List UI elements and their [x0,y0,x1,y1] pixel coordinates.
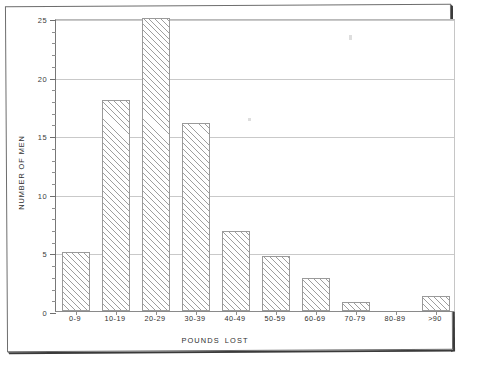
x-axis-tick-label: 70-79 [345,314,366,323]
x-axis-title: POUNDS LOST [0,336,477,345]
x-axis-tick-label: 80-89 [385,314,406,323]
bar [62,252,91,311]
x-axis-tick-label: >90 [428,314,442,323]
bar [302,278,331,311]
bar-series [56,20,454,311]
plot-area: 2520151050 [55,19,455,312]
y-axis-tick-label: 25 [38,16,47,25]
bar [342,302,371,311]
y-axis-tick-label: 0 [42,309,47,318]
x-axis-tick-label: 40-49 [225,314,246,323]
y-axis-tick [50,313,56,314]
bar [422,296,451,311]
histogram-chart: 2520151050 0-910-1920-2930-3940-4950-596… [0,0,477,368]
bar [262,256,291,311]
x-axis-tick-label: 10-19 [105,314,126,323]
x-axis-tick-label: 50-59 [265,314,286,323]
y-axis-tick-label: 5 [42,250,47,259]
y-axis-tick-label: 20 [38,74,47,83]
x-axis-tick-label: 0-9 [69,314,81,323]
y-axis-tick-label: 15 [38,133,47,142]
bar [142,18,171,311]
y-axis-title: NUMBER OF MEN [17,135,26,210]
x-axis-tick-label: 30-39 [185,314,206,323]
x-axis-tick-label: 20-29 [145,314,166,323]
bar [222,231,251,311]
x-axis-title-text: POUNDS LOST [181,336,248,345]
bar [182,123,211,311]
y-axis-tick-label: 10 [38,191,47,200]
bar [102,100,131,311]
scan-speck [349,35,352,40]
scan-speck [248,118,251,121]
x-axis-tick-label: 60-69 [305,314,326,323]
